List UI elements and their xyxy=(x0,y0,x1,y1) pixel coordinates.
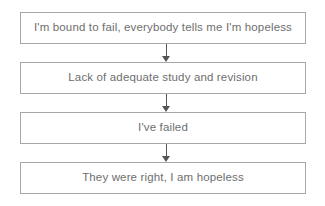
flowchart-node-2: Lack of adequate study and revision xyxy=(20,62,306,94)
arrow-down-icon xyxy=(161,144,172,162)
flowchart-node-1: I'm bound to fail, everybody tells me I'… xyxy=(20,12,306,44)
flowchart-node-3: I've failed xyxy=(20,112,306,144)
flowchart-node-label: I've failed xyxy=(138,122,188,134)
flowchart-node-label: They were right, I am hopeless xyxy=(82,172,244,184)
flowchart-node-label: I'm bound to fail, everybody tells me I'… xyxy=(34,22,292,34)
flowchart-node-4: They were right, I am hopeless xyxy=(20,162,306,194)
flowchart-diagram: I'm bound to fail, everybody tells me I'… xyxy=(0,0,325,206)
flowchart-node-label: Lack of adequate study and revision xyxy=(68,72,257,84)
arrow-down-icon xyxy=(161,44,172,62)
arrow-down-icon xyxy=(161,94,172,112)
